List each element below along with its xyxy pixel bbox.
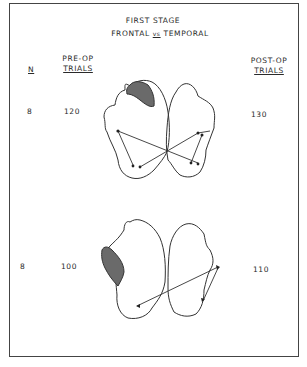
brain-diagrams (0, 0, 307, 367)
lower-right-hemisphere-outline (168, 224, 213, 317)
lower-arrows (137, 267, 218, 306)
upper-arrows (118, 131, 210, 167)
upper-frontal-lesion (127, 82, 155, 107)
lower-temporal-lesion (102, 247, 124, 286)
